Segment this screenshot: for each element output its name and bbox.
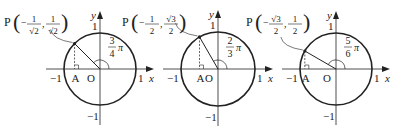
angle-numerator: 2 — [228, 35, 233, 46]
label-one-y: 1 — [210, 19, 216, 31]
y-axis-arrow-icon — [333, 11, 339, 19]
x-numerator: √3 — [271, 14, 281, 24]
point-p — [73, 42, 76, 45]
x-sign: − — [139, 17, 145, 28]
point-p-label: P — [246, 15, 253, 29]
label-a: A — [302, 72, 310, 84]
label-neg-one-y: −1 — [205, 111, 217, 123]
label-a: A — [72, 72, 80, 84]
label-x: x — [148, 72, 154, 84]
y-axis-arrow-icon — [215, 10, 221, 18]
comma: , — [284, 18, 287, 29]
left-paren: ( — [13, 9, 20, 34]
label-o: O — [87, 72, 95, 84]
pi-symbol: π — [236, 42, 242, 53]
label-one-y: 1 — [328, 20, 334, 32]
angle-arc — [328, 60, 345, 69]
label-neg-one-y: −1 — [87, 110, 99, 122]
radius-op — [305, 51, 336, 69]
y-numerator: √3 — [166, 14, 176, 24]
x-denominator: 2 — [274, 26, 279, 36]
point-p — [303, 49, 306, 52]
left-paren: ( — [131, 9, 138, 34]
left-paren: ( — [255, 9, 262, 34]
y-denominator: 2 — [169, 26, 174, 36]
x-numerator: 1 — [150, 14, 155, 24]
angle-numerator: 3 — [110, 35, 115, 46]
label-one-x: 1 — [138, 72, 144, 84]
comma: , — [160, 18, 163, 29]
x-denominator: √2 — [29, 26, 38, 36]
y-numerator: 1 — [51, 14, 56, 24]
y-denominator: 2 — [293, 26, 298, 36]
y-numerator: 1 — [293, 14, 298, 24]
radius-op — [200, 37, 219, 69]
point-p-label: P — [4, 15, 11, 29]
label-neg-one-x: −1 — [167, 72, 179, 84]
angle-denominator: 3 — [228, 48, 233, 59]
right-angle-mark — [200, 65, 204, 69]
right-paren: ) — [179, 9, 186, 34]
angle-numerator: 5 — [346, 35, 351, 46]
comma: , — [42, 18, 45, 29]
y-axis-arrow-icon — [97, 11, 103, 19]
label-o: O — [205, 72, 213, 84]
label-neg-one-x: −1 — [286, 72, 298, 84]
label-o: O — [323, 72, 331, 84]
label-one-y: 1 — [92, 20, 98, 32]
angle-denominator: 4 — [110, 48, 115, 59]
x-sign: − — [21, 17, 27, 28]
label-one-x: 1 — [374, 72, 380, 84]
label-a: A — [197, 72, 205, 84]
x-numerator: 1 — [32, 14, 37, 24]
label-neg-one-y: −1 — [323, 110, 335, 122]
x-sign: − — [263, 17, 269, 28]
point-p — [198, 35, 201, 38]
x-denominator: 2 — [150, 26, 155, 36]
right-paren: ) — [61, 9, 68, 34]
label-x: x — [267, 72, 273, 84]
unit-circle-diagrams: −1AO1xy1−134πP(−1√2,1√2)−1AO1xy1−123πP(−… — [0, 0, 414, 130]
pi-symbol: π — [118, 42, 124, 53]
right-angle-mark — [75, 65, 79, 69]
right-angle-mark — [305, 65, 309, 69]
label-leader — [281, 37, 303, 50]
label-neg-one-x: −1 — [50, 72, 62, 84]
y-denominator: √2 — [48, 26, 57, 36]
point-p-label: P — [122, 15, 129, 29]
label-one-x: 1 — [257, 72, 263, 84]
pi-symbol: π — [354, 42, 360, 53]
right-paren: ) — [303, 9, 310, 34]
label-x: x — [384, 72, 390, 84]
angle-denominator: 6 — [346, 48, 351, 59]
